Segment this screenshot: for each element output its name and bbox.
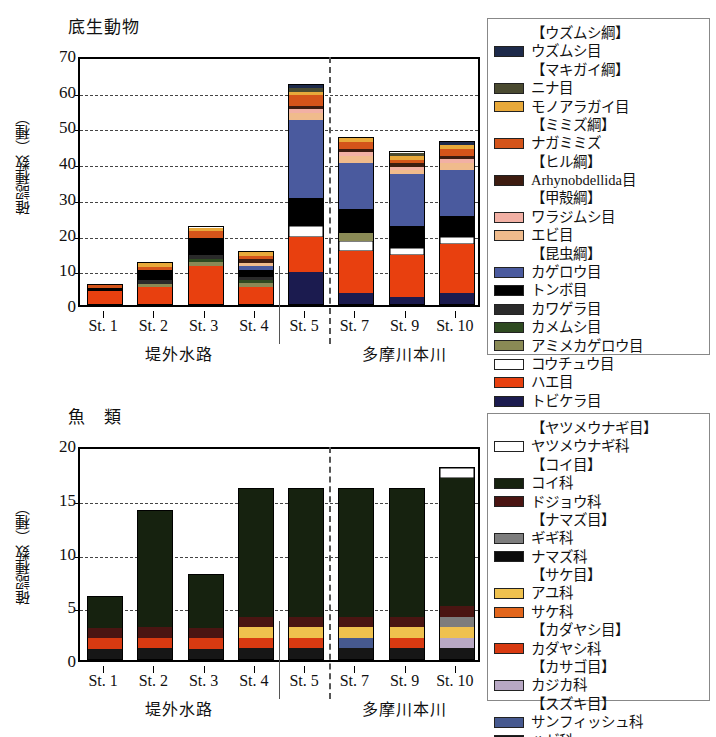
fish-bar-segment — [440, 617, 474, 628]
benthic-chart-title: 底生動物 — [68, 13, 140, 38]
fish-bar-segment — [339, 648, 373, 659]
benthic-legend-item: コウチュウ目 — [494, 355, 703, 373]
benthic-bar — [137, 262, 173, 305]
fish-x-tick-label: St. 4 — [239, 672, 268, 690]
benthic-bar-segment — [440, 237, 474, 244]
fish-legend-label: ナマズ科 — [531, 550, 587, 565]
benthic-legend-swatch — [494, 156, 524, 167]
benthic-gridline — [80, 95, 478, 96]
benthic-bar — [288, 84, 324, 305]
fish-legend-label: 【サケ目】 — [531, 568, 601, 583]
fish-legend-label: 【ヤツメウナギ目】 — [531, 421, 657, 436]
benthic-bar-segment — [390, 248, 424, 255]
benthic-y-tick-label: 10 — [59, 261, 76, 281]
benthic-legend-label: 【ヒル綱】 — [531, 155, 601, 170]
benthic-legend-swatch — [494, 267, 524, 278]
benthic-legend-label: コウチュウ目 — [531, 357, 614, 372]
fish-bar-segment — [339, 627, 373, 638]
fish-legend-label: アユ科 — [531, 586, 573, 601]
fish-group-separator-solid — [279, 621, 280, 699]
benthic-bar — [439, 141, 475, 305]
benthic-legend-swatch — [494, 120, 524, 131]
benthic-legend-swatch — [494, 230, 524, 241]
benthic-y-axis-label: 確認種数（種） — [12, 110, 33, 215]
benthic-legend-swatch — [494, 28, 524, 39]
fish-bar — [188, 574, 224, 660]
fish-legend-swatch — [494, 478, 524, 489]
fish-legend-label: ヤツメウナギ科 — [531, 439, 629, 454]
fish-chart-title: 魚 類 — [68, 403, 122, 428]
benthic-legend-swatch — [494, 340, 524, 351]
fish-legend-label: サケ科 — [531, 605, 573, 620]
benthic-legend-item: トンボ目 — [494, 281, 703, 299]
benthic-bar-segment — [339, 209, 373, 234]
benthic-x-tick-label: St. 3 — [189, 317, 218, 335]
benthic-bar-segment — [289, 272, 323, 304]
benthic-legend-item: 【甲殻綱】 — [494, 190, 703, 208]
benthic-bar-segment — [138, 270, 172, 280]
benthic-bar-segment — [339, 156, 373, 163]
benthic-legend-swatch — [494, 83, 524, 94]
fish-y-axis-label: 確認種数（種） — [12, 500, 33, 605]
fish-bar — [87, 596, 123, 661]
fish-legend-swatch — [494, 570, 524, 581]
fish-legend-item: ギギ科 — [494, 529, 703, 547]
benthic-bar-segment — [289, 237, 323, 272]
benthic-legend-label: ウズムシ目 — [531, 44, 601, 59]
benthic-bar-segment — [440, 293, 474, 304]
fish-legend-label: 【コイ目】 — [531, 458, 601, 473]
fish-legend-item: 【ヤツメウナギ目】 — [494, 419, 703, 437]
benthic-bar-segment — [390, 226, 424, 247]
benthic-legend-label: ワラジムシ目 — [531, 210, 615, 225]
benthic-bar-segment — [390, 255, 424, 297]
fish-bar-segment — [390, 617, 424, 628]
benthic-x-tick-label: St. 7 — [340, 317, 369, 335]
benthic-legend-swatch — [494, 359, 524, 370]
benthic-legend-item: ワラジムシ目 — [494, 208, 703, 226]
fish-legend-item: 【スズキ目】 — [494, 695, 703, 713]
fish-x-tick-label: St. 7 — [340, 672, 369, 690]
benthic-legend-label: カメムシ目 — [531, 320, 601, 335]
fish-bar-segment — [440, 468, 474, 479]
benthic-legend-item: Arhynobdellida目 — [494, 171, 703, 189]
benthic-chart: 底生動物 確認種数（種） 010203040506070 St. 1St. 2S… — [0, 0, 486, 370]
fish-legend-swatch — [494, 643, 524, 654]
fish-legend-label: ドジョウ科 — [531, 495, 601, 510]
benthic-y-tick-label: 40 — [59, 154, 76, 174]
benthic-y-tick-label: 30 — [59, 190, 76, 210]
benthic-legend-swatch — [494, 396, 524, 407]
fish-bar-segment — [339, 617, 373, 628]
fish-legend-item: サンフィッシュ科 — [494, 713, 703, 731]
benthic-legend-item: ハエ目 — [494, 373, 703, 391]
fish-bar-segment — [289, 617, 323, 628]
fish-bar-segment — [239, 627, 273, 638]
fish-legend-label: ギギ科 — [531, 531, 573, 546]
fish-legend-item: カダヤシ科 — [494, 640, 703, 658]
benthic-bar-segment — [189, 266, 223, 304]
benthic-legend-label: 【昆虫綱】 — [531, 247, 601, 262]
fish-legend-item: カジカ科 — [494, 676, 703, 694]
fish-legend-swatch — [494, 551, 524, 562]
benthic-bar-segment — [339, 293, 373, 304]
fish-legend-item: ハゼ科 — [494, 732, 703, 737]
benthic-legend-item: 【昆虫綱】 — [494, 245, 703, 263]
benthic-legend-item: カメムシ目 — [494, 318, 703, 336]
benthic-bar-segment — [390, 297, 424, 304]
fish-legend-label: コイ科 — [531, 476, 573, 491]
benthic-legend-label: ハエ目 — [531, 375, 573, 390]
fish-legend-label: ハゼ科 — [531, 734, 573, 737]
fish-y-tick-label: 15 — [59, 491, 76, 511]
benthic-bar-segment — [239, 270, 273, 277]
benthic-legend-item: 【ヒル綱】 — [494, 153, 703, 171]
fish-bar-segment — [440, 478, 474, 606]
fish-y-tick-label: 20 — [59, 437, 76, 457]
benthic-x-tick-label: St. 1 — [88, 317, 117, 335]
fish-x-tick-label: St. 3 — [189, 672, 218, 690]
benthic-legend-label: ナガミミズ — [531, 136, 601, 151]
benthic-x-axis: St. 1St. 2St. 3St. 4St. 5St. 7St. 9St. 1… — [78, 310, 480, 365]
benthic-bar-segment — [189, 238, 223, 255]
benthic-bar — [238, 251, 274, 305]
benthic-legend-swatch — [494, 285, 524, 296]
fish-bar-segment — [289, 648, 323, 659]
fish-legend-item: ドジョウ科 — [494, 493, 703, 511]
